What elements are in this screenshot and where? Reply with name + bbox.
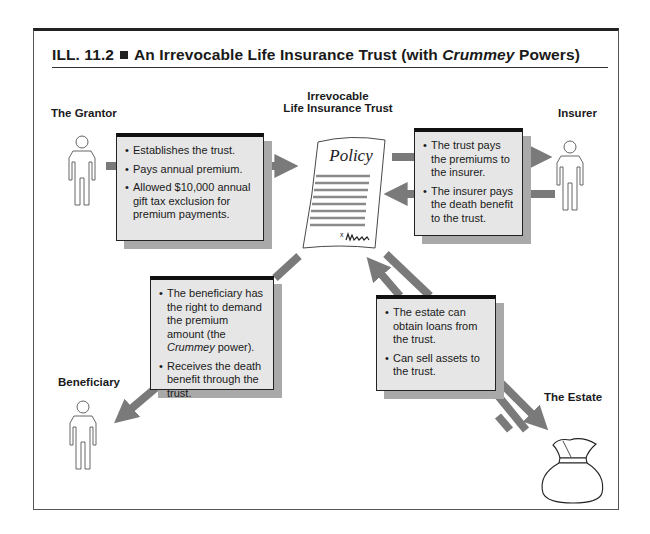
beneficiary-bullet: The beneficiary has the right to demand … [159, 287, 267, 355]
grantor-person-icon [69, 136, 95, 205]
grantor-info-box: Establishes the trust. Pays annual premi… [116, 133, 264, 241]
beneficiary-label: Beneficiary [58, 376, 120, 388]
insurer-bullet: The insurer pays the death benefit to th… [423, 185, 516, 226]
estate-info-box: The estate can obtain loans from the tru… [376, 295, 496, 391]
policy-heading: Policy [322, 146, 380, 166]
signature-x: x [340, 231, 344, 238]
grantor-label: The Grantor [51, 107, 117, 119]
insurer-person-icon [557, 141, 583, 210]
grantor-bullet: Allowed $10,000 annual gift tax exclusio… [125, 181, 257, 222]
insurer-info-box: The trust pays the premiums to the insur… [414, 128, 523, 236]
estate-label: The Estate [544, 391, 602, 403]
insurer-bullet: The trust pays the premiums to the insur… [423, 139, 516, 180]
grantor-bullet: Establishes the trust. [125, 144, 257, 158]
grantor-bullet: Pays annual premium. [125, 163, 257, 177]
trust-label: Irrevocable Life Insurance Trust [268, 90, 408, 114]
beneficiary-bullet: Receives the death benefit through the t… [159, 360, 267, 401]
diagram-graphics [0, 0, 650, 534]
insurer-label: Insurer [558, 107, 597, 119]
estate-bullet: The estate can obtain loans from the tru… [385, 306, 489, 347]
beneficiary-info-box: The beneficiary has the right to demand … [150, 276, 274, 390]
estate-bullet: Can sell assets to the trust. [385, 352, 489, 379]
beneficiary-person-icon [70, 401, 96, 469]
estate-money-bag-icon [542, 439, 603, 503]
